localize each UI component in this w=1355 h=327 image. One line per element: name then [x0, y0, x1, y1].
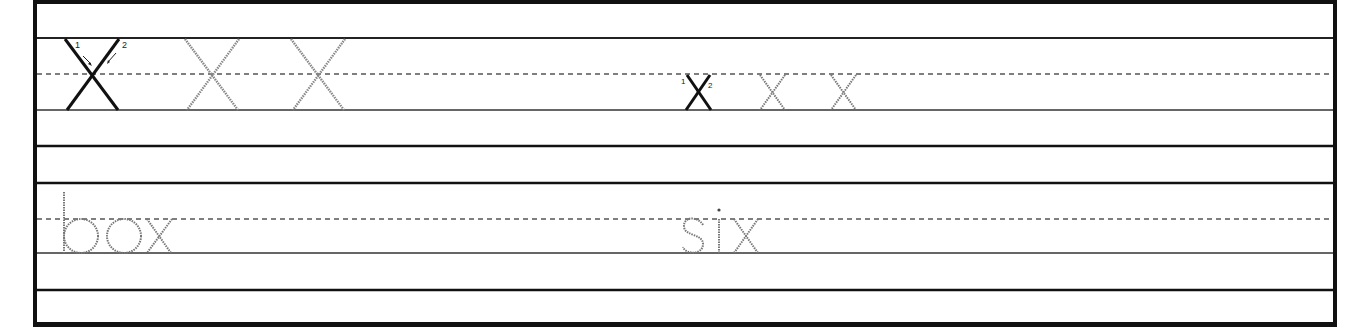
stroke-number-1: 1: [681, 77, 686, 86]
i-dot: [717, 208, 720, 211]
lowercase-x-model: 1 2: [681, 75, 713, 110]
row1-guidelines: [37, 38, 1333, 146]
stroke-number-1: 1: [75, 40, 80, 50]
lowercase-x-trace-2: [831, 75, 856, 110]
row2-guidelines: [37, 183, 1333, 290]
lowercase-x-trace-1: [760, 75, 785, 110]
trace-word-six: [683, 218, 758, 253]
stroke-number-2: 2: [122, 40, 127, 50]
stroke-number-2: 2: [708, 81, 713, 90]
worksheet-lines-and-letters: 1 2 1 2: [0, 0, 1355, 327]
trace-word-box: [64, 192, 172, 253]
